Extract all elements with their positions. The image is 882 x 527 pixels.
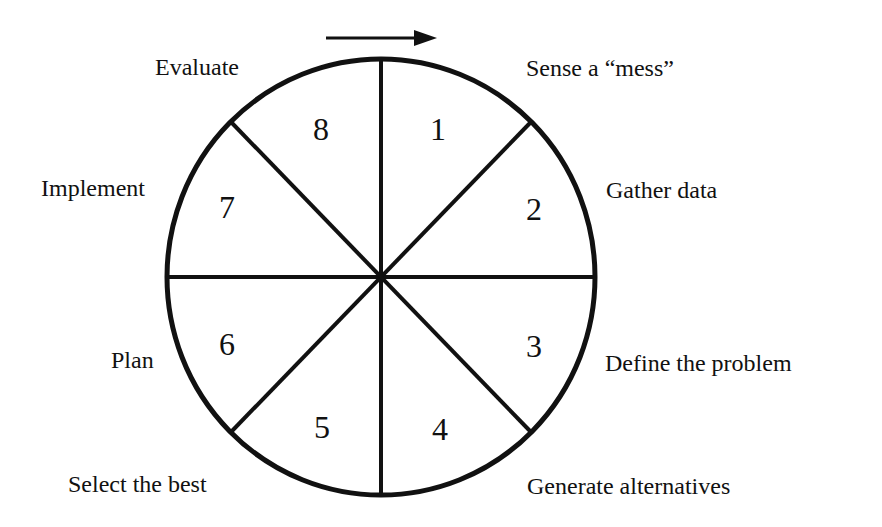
- segment-number-4: 4: [420, 413, 460, 445]
- segment-number-8: 8: [301, 113, 341, 145]
- direction-arrow-icon: [326, 30, 437, 46]
- segment-number-7: 7: [207, 191, 247, 223]
- cycle-wheel: [0, 0, 882, 527]
- label-define-the-problem: Define the problem: [605, 351, 792, 375]
- label-generate-alternatives: Generate alternatives: [527, 474, 730, 498]
- label-evaluate: Evaluate: [155, 55, 239, 79]
- label-sense-a-mess: Sense a “mess”: [526, 56, 674, 80]
- label-select-the-best: Select the best: [68, 472, 207, 496]
- label-gather-data: Gather data: [606, 178, 717, 202]
- segment-number-2: 2: [514, 193, 554, 225]
- segment-number-6: 6: [207, 328, 247, 360]
- label-implement: Implement: [41, 176, 145, 200]
- segment-number-1: 1: [418, 113, 458, 145]
- segment-number-3: 3: [514, 330, 554, 362]
- segment-number-5: 5: [302, 411, 342, 443]
- label-plan: Plan: [111, 348, 154, 372]
